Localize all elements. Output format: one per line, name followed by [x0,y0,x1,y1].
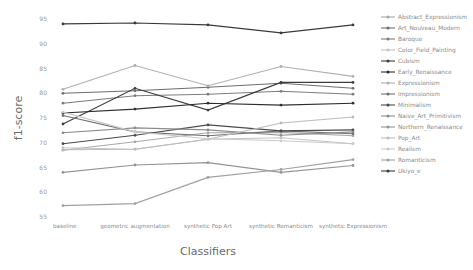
x-tick-label: synthetic Expressionism [319,223,387,230]
legend-marker-icon [387,137,390,140]
legend-item: Art_Nouveau_Modern [381,25,460,32]
data-point-marker [62,23,65,26]
data-point-marker [134,134,137,137]
legend-label: Ukiyo_e [398,168,421,175]
y-tick-label: 80 [39,89,47,96]
data-point-marker [352,93,355,96]
data-point-marker [134,89,137,92]
data-point-marker [352,116,355,119]
y-tick-label: 70 [39,139,47,146]
data-point-marker [207,124,210,127]
legend-item: Abstract_Expressionism [381,14,467,21]
y-tick-label: 95 [39,15,47,22]
x-axis-ticks: baselinegeometric augmentationsynthetic … [53,223,387,230]
data-point-marker [134,148,137,151]
y-tick-label: 75 [39,114,47,121]
legend-marker-icon [387,115,390,118]
data-point-marker [134,22,137,25]
data-point-marker [207,161,210,164]
data-point-marker [134,164,137,167]
legend-item: Ukiyo_e [381,168,421,175]
legend-item: Northern_Renaissance [381,124,463,131]
data-point-marker [207,134,210,137]
x-axis-label: Classifiers [180,245,236,258]
data-point-marker [280,122,283,125]
legend-marker-icon [387,82,390,85]
data-point-marker [280,130,283,133]
data-point-marker [207,24,210,27]
legend-item: Color_Field_Painting [381,47,456,54]
data-point-marker [207,84,210,87]
legend-label: Pop_Art [398,135,421,142]
legend-item: Naive_Art_Primitivism [381,113,462,120]
legend-item: Early_Renaissance [381,69,452,76]
series-line [62,22,355,35]
x-tick-label: synthetic Pop Art [184,223,233,230]
data-point-marker [207,93,210,96]
legend-marker-icon [387,93,390,96]
data-point-marker [207,129,210,132]
legend-marker-icon [387,159,390,162]
data-point-marker [134,87,137,90]
data-point-marker [280,168,283,171]
legend-label: Minimalism [398,102,431,108]
legend: Abstract_ExpressionismArt_Nouveau_Modern… [381,14,467,175]
data-point-marker [62,204,65,207]
data-point-marker [280,104,283,107]
legend-item: Baroque [381,36,423,43]
y-axis-ticks: 556065707580859095 [39,15,47,220]
series-line [62,64,355,91]
legend-label: Baroque [398,36,423,43]
x-tick-label: synthetic Romanticism [249,223,313,230]
series-line [62,161,355,174]
data-point-marker [280,81,283,84]
legend-label: Art_Nouveau_Modern [398,25,460,32]
data-point-marker [280,32,283,35]
y-tick-label: 60 [39,188,47,195]
y-tick-label: 55 [39,213,47,220]
data-point-marker [352,24,355,27]
data-point-marker [352,75,355,78]
data-point-marker [134,127,137,130]
legend-item: Minimalism [381,102,431,108]
legend-label: Cubism [398,58,420,64]
data-point-marker [62,142,65,145]
legend-label: Expressionism [398,80,440,87]
legend-marker-icon [387,16,390,19]
legend-item: Pop_Art [381,135,421,142]
line-chart: 556065707580859095 baselinegeometric aug… [0,0,473,270]
y-tick-label: 65 [39,164,47,171]
legend-marker-icon [387,27,390,30]
legend-label: Naive_Art_Primitivism [398,113,462,120]
legend-item: Cubism [381,58,420,64]
data-point-marker [62,171,65,174]
legend-label: Abstract_Expressionism [398,14,467,21]
data-point-marker [280,134,283,137]
series-line [62,102,355,115]
data-point-marker [62,148,65,151]
legend-marker-icon [387,71,390,74]
data-point-marker [207,137,210,140]
data-point-marker [280,139,283,142]
data-point-marker [134,64,137,67]
legend-marker-icon [387,104,390,107]
legend-item: Romanticism [381,157,436,163]
legend-item: Impressionism [381,91,440,98]
data-point-marker [207,131,210,134]
data-point-marker [62,111,65,114]
data-point-marker [352,81,355,84]
data-point-marker [134,202,137,205]
data-point-marker [207,176,210,179]
data-point-marker [352,164,355,167]
series-line [62,158,355,207]
legend-marker-icon [387,170,390,173]
data-point-marker [62,131,65,134]
data-point-marker [134,140,137,143]
legend-label: Early_Renaissance [398,69,452,76]
data-point-marker [280,136,283,139]
x-tick-label: geometric augmentation [100,223,170,230]
data-point-marker [352,158,355,161]
y-axis-label: f1-score [12,96,25,141]
legend-label: Color_Field_Painting [398,47,456,54]
data-point-marker [352,142,355,145]
